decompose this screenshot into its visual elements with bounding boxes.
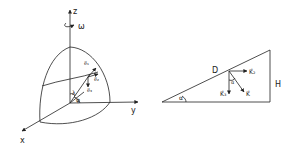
omega-label: ω [78, 22, 85, 31]
lambda-label: λ [72, 89, 76, 96]
diagram-canvas: z ω y x λ φ e⃗₁ e⃗₂ e⃗₃ D H α α K⃗₂ K⃗₃ … [0, 0, 294, 154]
e1-label: e⃗₁ [84, 60, 89, 66]
k-label: K⃗ [246, 90, 251, 97]
globe-meridian-outline [40, 47, 110, 122]
k2-label: K⃗₂ [249, 68, 256, 75]
z-label: z [73, 7, 77, 16]
rotation-arrow [65, 23, 74, 27]
alpha-inner-label: α [231, 79, 235, 85]
e3-label: e⃗₃ [87, 87, 92, 93]
x-axis [22, 103, 70, 131]
alpha-base-label: α [179, 94, 183, 101]
x-label: x [20, 136, 25, 145]
y-label: y [131, 106, 136, 115]
h-label: H [275, 80, 281, 89]
phi-label: φ [76, 96, 80, 104]
d-label: D [212, 66, 218, 75]
k3-label: K⃗₃ [220, 90, 227, 97]
globe-equator-outline [40, 102, 110, 124]
e2-label: e⃗₂ [94, 76, 99, 82]
